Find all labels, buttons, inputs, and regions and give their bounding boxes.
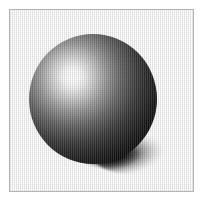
image-canvas — [0, 0, 204, 207]
image-border — [9, 9, 194, 192]
